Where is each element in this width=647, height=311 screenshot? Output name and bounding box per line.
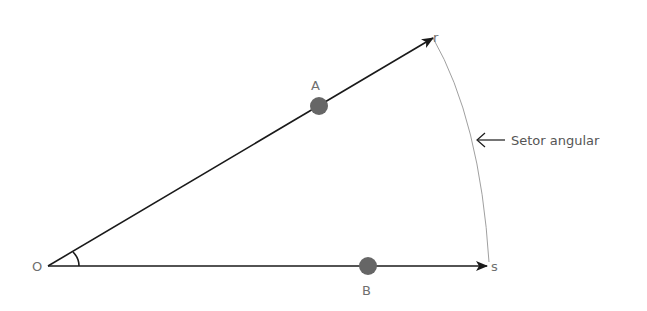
sector-annotation-label: Setor angular: [511, 133, 600, 148]
angular-sector-diagram: O A B r s Setor angular: [0, 0, 647, 311]
vertex-label: O: [32, 259, 42, 274]
point-a: [310, 97, 328, 115]
point-b-label: B: [362, 283, 371, 298]
sector-arc: [433, 38, 489, 262]
point-a-label: A: [311, 78, 320, 93]
ray-s-label: s: [491, 259, 498, 274]
point-b: [359, 257, 377, 275]
angle-marker-arc: [73, 252, 79, 266]
ray-r: [48, 38, 433, 266]
ray-r-label: r: [433, 30, 439, 45]
